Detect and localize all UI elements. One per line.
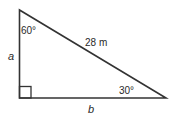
hypotenuse-label: 28 m xyxy=(85,37,107,48)
side-b-label: b xyxy=(88,103,94,115)
triangle xyxy=(20,10,167,98)
angle-60-label: 60° xyxy=(21,25,36,36)
side-a-label: a xyxy=(8,50,14,62)
angle-30-label: 30° xyxy=(119,85,134,96)
triangle-diagram: 60° 28 m 30° a b xyxy=(0,0,176,124)
right-angle-marker xyxy=(20,87,32,99)
